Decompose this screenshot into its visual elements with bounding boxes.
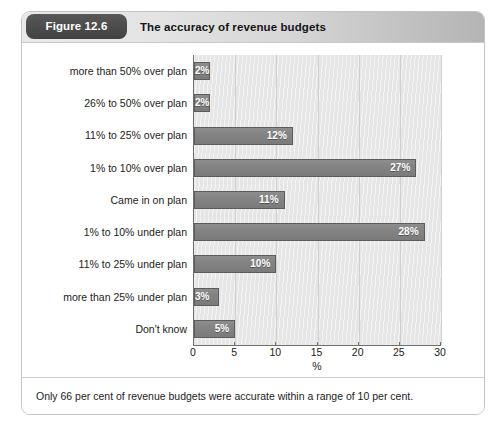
bar-value-label: 2% xyxy=(195,94,209,112)
x-axis-tick-label: 30 xyxy=(434,346,446,358)
bar-row: 12% xyxy=(194,119,441,151)
y-axis-category-label: 1% to 10% under plan xyxy=(28,216,193,248)
y-axis-category-label: 11% to 25% under plan xyxy=(28,248,193,280)
figure-card: Figure 12.6 The accuracy of revenue budg… xyxy=(21,11,485,415)
figure-header: Figure 12.6 The accuracy of revenue budg… xyxy=(22,12,484,43)
bar-value-label: 27% xyxy=(194,159,416,177)
figure-footer: Only 66 per cent of revenue budgets were… xyxy=(22,377,484,414)
y-axis-category-label: 26% to 50% over plan xyxy=(28,87,193,119)
bar-value-label: 12% xyxy=(194,127,293,145)
x-axis-title: % xyxy=(193,360,441,372)
bar-value-label: 11% xyxy=(194,191,285,209)
bar-row: 2% xyxy=(194,55,441,87)
x-axis-tick-label: 25 xyxy=(393,346,405,358)
bar-value-label: 28% xyxy=(194,223,425,241)
bar-row: 11% xyxy=(194,184,441,216)
bar-row: 5% xyxy=(194,313,441,345)
y-axis-category-label: more than 50% over plan xyxy=(28,55,193,87)
bar-row: 27% xyxy=(194,152,441,184)
bar-row: 2% xyxy=(194,87,441,119)
x-axis-tick-label: 5 xyxy=(231,346,237,358)
x-axis-tick-label: 15 xyxy=(311,346,323,358)
x-axis-tick-label: 10 xyxy=(269,346,281,358)
y-axis-category-label: Don't know xyxy=(28,313,193,345)
y-axis-category-label: 1% to 10% over plan xyxy=(28,152,193,184)
bar-row: 3% xyxy=(194,281,441,313)
bar-value-label: 5% xyxy=(194,320,235,338)
y-axis-category-label: more than 25% under plan xyxy=(28,281,193,313)
y-axis-category-label: Came in on plan xyxy=(28,184,193,216)
chart-body: more than 50% over plan26% to 50% over p… xyxy=(22,43,484,378)
bar-row: 28% xyxy=(194,216,441,248)
gridline xyxy=(441,55,442,345)
figure-footnote: Only 66 per cent of revenue budgets were… xyxy=(36,378,413,414)
plot-area: 2%2%12%27%11%28%10%3%5% xyxy=(193,55,441,346)
bar-value-label: 2% xyxy=(195,62,209,80)
y-axis-category-labels: more than 50% over plan26% to 50% over p… xyxy=(22,55,193,345)
bar-value-label: 3% xyxy=(195,288,209,306)
x-axis-tick-label: 0 xyxy=(190,346,196,358)
x-axis-tick-label: 20 xyxy=(352,346,364,358)
y-axis-category-label: 11% to 25% over plan xyxy=(28,119,193,151)
bar-value-label: 10% xyxy=(194,255,276,273)
figure-number-badge: Figure 12.6 xyxy=(26,14,127,39)
figure-title: The accuracy of revenue budgets xyxy=(140,12,326,42)
bar-row: 10% xyxy=(194,248,441,280)
